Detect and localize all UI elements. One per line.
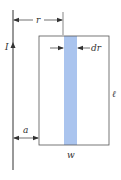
current-label: I (4, 42, 9, 52)
diagram-canvas: I r dr ℓ a w (0, 0, 121, 180)
shaded-strip (64, 36, 77, 145)
width-label: w (67, 150, 75, 160)
a-label: a (23, 125, 28, 135)
current-arrow-icon (11, 42, 16, 48)
r-label: r (36, 15, 41, 25)
dr-label: dr (91, 43, 102, 53)
length-label: ℓ (112, 89, 116, 99)
